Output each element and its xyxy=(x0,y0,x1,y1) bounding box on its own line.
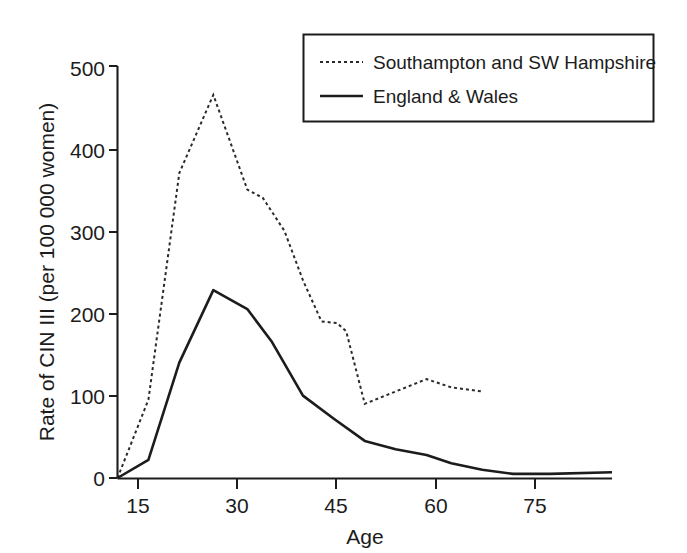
series-line-england-and-wales xyxy=(118,290,613,478)
legend-label-england-wales: England & Wales xyxy=(373,86,518,107)
x-tick-label: 60 xyxy=(424,494,447,517)
y-tick-label: 300 xyxy=(70,221,105,244)
legend-box xyxy=(304,35,654,122)
y-axis-tick-labels: 0 100 200 300 400 500 xyxy=(70,57,105,490)
x-axis xyxy=(118,479,613,490)
x-tick-label: 30 xyxy=(225,494,248,517)
legend: Southampton and SW Hampshire England & W… xyxy=(304,35,657,122)
x-tick-label: 75 xyxy=(523,494,546,517)
y-tick-label: 0 xyxy=(93,467,105,490)
data-series-group xyxy=(118,95,613,478)
y-tick-label: 200 xyxy=(70,303,105,326)
x-axis-title: Age xyxy=(346,525,383,548)
series-line-southampton-and-sw-hampshire xyxy=(118,95,483,478)
y-tick-label: 400 xyxy=(70,139,105,162)
x-tick-label: 15 xyxy=(126,494,149,517)
x-axis-tick-labels: 15 30 45 60 75 xyxy=(126,494,546,517)
line-chart: 0 100 200 300 400 500 15 xyxy=(0,0,687,553)
y-tick-label: 100 xyxy=(70,385,105,408)
y-tick-label: 500 xyxy=(70,57,105,80)
x-tick-label: 45 xyxy=(324,494,347,517)
y-axis-title: Rate of CIN III (per 100 000 women) xyxy=(35,103,58,442)
chart-figure: 0 100 200 300 400 500 15 xyxy=(0,0,687,553)
y-axis xyxy=(109,66,118,478)
legend-label-southampton: Southampton and SW Hampshire xyxy=(373,52,656,73)
